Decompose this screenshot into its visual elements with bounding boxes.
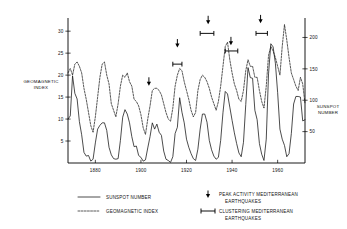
peak-activity-arrowhead — [147, 82, 151, 86]
y-axis-tick-label: 30 — [58, 29, 64, 34]
y-axis-label: INDEX — [34, 85, 48, 90]
series-sunspot-number — [68, 44, 305, 163]
clustering-bracket — [173, 62, 182, 67]
y2-axis-tick-label: 50 — [310, 129, 316, 134]
clustering-bracket — [256, 31, 267, 36]
y2-axis-label: SUNSPOT — [317, 104, 340, 109]
legend-label-geomagnetic-index: GEOMAGNETIC INDEX — [106, 209, 158, 214]
legend-marker-arrow-head — [206, 194, 210, 198]
y2-axis-tick-label: 150 — [310, 67, 318, 72]
legend-label-clustering-2: EARTHQUAKES — [225, 216, 261, 221]
legend-marker-bracket — [201, 209, 215, 214]
y-axis-tick-label: 20 — [58, 73, 64, 78]
x-axis-tick-label: 1920 — [181, 168, 192, 173]
y-axis-tick-label: 5 — [61, 139, 64, 144]
legend-label-peak-activity-2: EARTHQUAKES — [225, 199, 261, 204]
series-geomagnetic-index — [68, 25, 305, 135]
x-axis-tick-label: 1960 — [272, 168, 283, 173]
peak-activity-arrowhead — [175, 43, 179, 47]
peak-activity-arrowhead — [258, 19, 262, 23]
y2-axis-label: NUMBER — [318, 110, 338, 115]
chart-canvas: 5101520253050100150200188019001920194019… — [0, 0, 347, 229]
x-axis-tick-label: 1940 — [227, 168, 238, 173]
legend-label-peak-activity: PEAK ACTIVITY MEDITERRANEAN — [219, 192, 298, 197]
figure-container: 5101520253050100150200188019001920194019… — [0, 0, 347, 229]
y2-axis-tick-label: 200 — [310, 35, 318, 40]
clustering-bracket — [200, 31, 214, 36]
peak-activity-arrowhead — [206, 20, 210, 24]
y-axis-label: GEOMAGNETIC — [23, 79, 58, 84]
peak-activity-arrowhead — [229, 41, 233, 45]
legend-label-sunspot-number: SUNSPOT NUMBER — [106, 195, 152, 200]
x-axis-tick-label: 1880 — [90, 168, 101, 173]
y-axis-tick-label: 15 — [58, 95, 64, 100]
y-axis-tick-label: 10 — [58, 117, 64, 122]
clustering-bracket — [225, 49, 238, 54]
legend-label-clustering: CLUSTERING MEDITERRANEAN — [219, 209, 293, 214]
y-axis-tick-label: 25 — [58, 51, 64, 56]
y2-axis-tick-label: 100 — [310, 98, 318, 103]
x-axis-tick-label: 1900 — [135, 168, 146, 173]
